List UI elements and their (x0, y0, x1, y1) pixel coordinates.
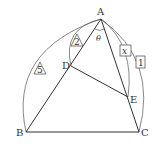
angle-mark-a (95, 29, 104, 31)
length-ad-text: 2 (74, 37, 80, 47)
point-label-e: E (130, 94, 137, 105)
point-label-b: B (16, 127, 23, 138)
length-tag-ae: x (120, 45, 131, 56)
segment-de (71, 66, 128, 97)
length-tag-ab: 5 (34, 62, 46, 75)
point-label-a: A (96, 6, 105, 17)
geometry-diagram: θ 5 2 x 1 A B C D E (0, 0, 159, 146)
length-tag-ac: 1 (136, 56, 145, 68)
length-ae-text: x (122, 46, 127, 56)
point-label-d: D (62, 60, 70, 71)
length-tag-ad: 2 (71, 34, 83, 47)
length-ab-text: 5 (37, 65, 43, 75)
angle-theta-label: θ (96, 34, 101, 43)
point-label-c: C (141, 127, 149, 138)
length-ac-text: 1 (138, 58, 144, 68)
arc-ac (101, 19, 144, 132)
